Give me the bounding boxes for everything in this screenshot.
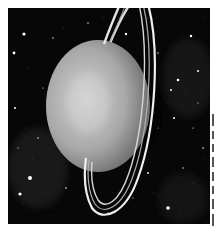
planet-image xyxy=(8,8,210,224)
cropped-edge-text xyxy=(212,114,219,224)
planet-highlight xyxy=(66,73,110,133)
starfield-scene xyxy=(8,8,210,224)
